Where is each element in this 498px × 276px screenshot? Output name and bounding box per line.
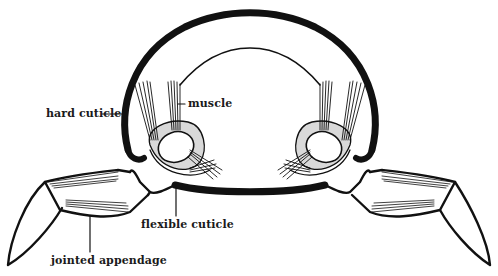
- arthropod-cross-section-drawing: [0, 0, 498, 276]
- diagram-canvas: hard cuticle muscle flexible cuticle joi…: [0, 0, 498, 276]
- ventral-cuticle: [175, 185, 325, 192]
- jointed-appendage-label: jointed appendage: [51, 255, 167, 267]
- inner-body-outline: [180, 48, 320, 85]
- right-jointed-appendage: [325, 170, 490, 265]
- hard-cuticle-label: hard cuticle: [46, 108, 121, 120]
- muscle-label: muscle: [188, 98, 232, 110]
- flexible-cuticle-label: flexible cuticle: [141, 219, 234, 231]
